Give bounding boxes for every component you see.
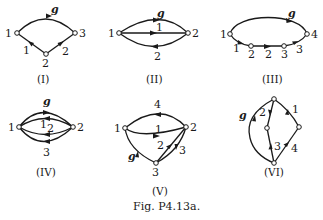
node-2 [186,31,191,36]
graph-caption: (III) [262,73,283,85]
edge-label: 1 [233,42,240,55]
node-label: 3 [152,166,159,179]
edge-label: 3 [274,140,281,153]
edge-g [17,19,75,33]
graph-vi: g 2 3 1 4 (VI) [239,97,301,178]
node-4 [305,32,310,37]
node-top [272,97,277,102]
node-2 [184,125,189,130]
edge-label: 1 [292,103,299,116]
node-label: 2 [190,121,197,134]
edge-2 [119,33,188,47]
node-1 [17,125,22,130]
edge-label: g [157,7,165,20]
node-label: 2 [42,57,49,70]
edge-label: 1 [156,21,163,34]
node-right [297,125,302,130]
node-label: 3 [79,27,86,40]
node-bottom [272,161,277,166]
edge-label: 4 [291,142,298,155]
arrow-icon [43,110,50,115]
node-label: 1 [114,122,121,135]
graph-caption: (VI) [264,166,284,178]
node-1 [228,32,233,37]
figure-caption: Fig. P4.13a. [133,200,200,213]
edge-label: 1 [40,118,47,131]
edge-label: 3 [43,146,50,159]
node-1 [117,31,122,36]
edge-label: 2 [157,139,164,152]
edge-label: g [239,109,247,122]
edge-label: g [43,95,51,108]
edge-label: g [51,3,59,16]
graph-iii: 1 2 3 4 g 1 2 3 (III) [220,7,318,85]
arrow-icon [151,44,158,49]
graph-caption: (IV) [36,166,56,178]
node-label: 1 [8,121,15,134]
edge-label: g [128,150,136,163]
arrow-icon [154,112,161,117]
node-label: 2 [248,48,255,61]
edge-label: 2 [265,48,272,61]
edge-label: 3 [296,43,303,56]
edge-label: 3 [179,144,186,157]
edge-label: 2 [62,45,69,58]
edge-label: 2 [259,106,266,119]
arrow-icon [166,144,172,149]
node-label: 2 [192,27,199,40]
node-label: 1 [5,27,12,40]
node-label: 1 [220,28,227,41]
figure-canvas: 1 2 3 g 1 2 (I) 1 2 g 1 2 (II) [0,0,323,220]
graph-caption: (II) [146,73,163,85]
edge-label: 2 [47,122,54,135]
node-label: 3 [281,48,288,61]
edge-label: 2 [154,50,161,63]
graph-ii: 1 2 g 1 2 (II) [108,7,199,85]
node-2 [44,52,49,57]
node-3 [154,161,159,166]
arrow-icon [284,142,290,147]
node-label: 2 [77,121,84,134]
graph-caption: (I) [37,73,49,85]
graph-iv: 1 2 g 1 2 3 (IV) [8,95,84,178]
graph-v: 1 2 3 4 1 2 3 g (V) [114,98,197,197]
edge-label: 1 [155,123,162,136]
graph-caption: (V) [152,185,168,197]
edge-label: g [288,7,296,20]
node-3 [73,31,78,36]
arrow-icon [268,110,272,117]
node-1 [123,126,128,131]
node-1 [15,31,20,36]
node-label: 4 [311,28,318,41]
arrow-icon [43,139,50,144]
node-middle [265,126,270,131]
graph-i: 1 2 3 g 1 2 (I) [5,3,86,85]
node-label: 1 [108,27,115,40]
node-2 [71,125,76,130]
edge-label: 4 [154,98,161,111]
edge-label: 1 [23,44,30,57]
